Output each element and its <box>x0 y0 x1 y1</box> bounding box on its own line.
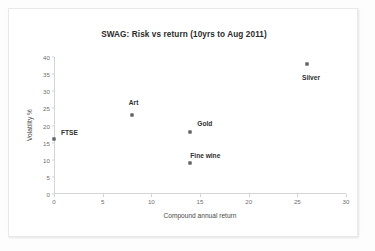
chart-title: SWAG: Risk vs return (10yrs to Aug 2011) <box>9 30 359 39</box>
data-point-marker <box>189 162 192 165</box>
data-point-label: Silver <box>302 74 320 81</box>
x-axis-tick-label: 30 <box>343 198 350 205</box>
y-axis-tick-label: 35 <box>43 71 50 78</box>
y-axis-tick-mark <box>52 91 54 92</box>
x-axis-tick-label: 10 <box>148 198 155 205</box>
data-point-marker <box>130 114 133 117</box>
data-point-label: FTSE <box>61 129 78 136</box>
y-axis-tick-label: 20 <box>43 122 50 129</box>
x-axis-tick-label: 20 <box>245 198 252 205</box>
data-point-label: Gold <box>197 120 212 127</box>
x-axis-tick-label: 5 <box>101 198 104 205</box>
y-axis-tick-mark <box>52 74 54 75</box>
x-axis-tick-mark <box>151 194 152 197</box>
x-axis-tick-label: 0 <box>52 198 55 205</box>
y-axis-title: Volatility % <box>26 109 33 141</box>
x-axis-tick-label: 15 <box>197 198 204 205</box>
y-axis-tick-mark <box>52 176 54 177</box>
data-point-marker <box>189 131 192 134</box>
y-axis-tick-mark <box>52 108 54 109</box>
plot-area: 0510152025303540051015202530FTSEArtGoldF… <box>54 57 346 194</box>
y-axis-tick-label: 15 <box>43 139 50 146</box>
y-axis-line <box>54 57 55 194</box>
y-axis-tick-label: 5 <box>47 173 50 180</box>
y-axis-tick-label: 0 <box>47 191 50 198</box>
y-axis-tick-label: 30 <box>43 88 50 95</box>
data-point-marker <box>53 138 56 141</box>
data-point-label: Fine wine <box>190 152 220 159</box>
x-axis-tick-mark <box>297 194 298 197</box>
x-axis-tick-mark <box>346 194 347 197</box>
x-axis-tick-mark <box>103 194 104 197</box>
y-axis-tick-label: 25 <box>43 105 50 112</box>
data-point-label: Art <box>129 99 139 106</box>
data-point-marker <box>306 62 309 65</box>
x-axis-tick-mark <box>200 194 201 197</box>
x-axis-title: Compound annual return <box>54 212 346 219</box>
y-axis-tick-label: 40 <box>43 54 50 61</box>
y-axis-tick-mark <box>52 159 54 160</box>
x-axis-tick-mark <box>249 194 250 197</box>
page-background: SWAG: Risk vs return (10yrs to Aug 2011)… <box>0 0 375 251</box>
y-axis-tick-mark <box>52 142 54 143</box>
y-axis-tick-label: 10 <box>43 156 50 163</box>
y-axis-tick-mark <box>52 57 54 58</box>
y-axis-tick-mark <box>52 125 54 126</box>
chart-card: SWAG: Risk vs return (10yrs to Aug 2011)… <box>8 8 358 237</box>
x-axis-tick-label: 25 <box>294 198 301 205</box>
x-axis-tick-mark <box>54 194 55 197</box>
